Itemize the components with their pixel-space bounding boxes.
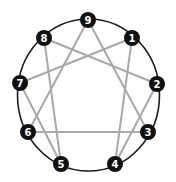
edge-1-4 [115,38,132,164]
node-label: 5 [58,159,65,170]
enneagram-diagram: 912345678 [0,0,176,182]
point-nodes: 912345678 [12,12,165,172]
node-6: 6 [20,124,36,140]
node-4: 4 [107,156,123,172]
node-label: 6 [25,127,32,138]
node-1: 1 [124,30,140,46]
node-label: 8 [41,33,48,44]
node-3: 3 [140,124,156,140]
node-label: 1 [129,33,136,44]
node-5: 5 [53,156,69,172]
node-label: 3 [145,127,152,138]
node-9: 9 [80,12,96,28]
node-label: 4 [112,159,119,170]
edge-7-1 [20,38,132,83]
node-label: 2 [154,79,161,90]
node-label: 9 [85,15,92,26]
node-7: 7 [12,75,28,91]
node-8: 8 [36,30,52,46]
node-label: 7 [17,78,24,89]
node-2: 2 [149,76,165,92]
